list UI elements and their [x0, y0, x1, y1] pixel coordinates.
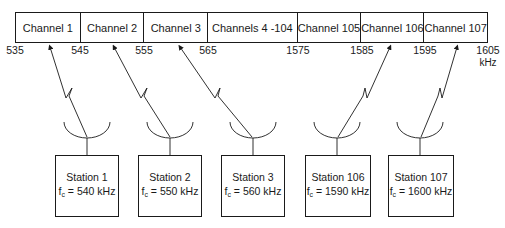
carrier-frequency: fc = 1600 kHz	[390, 184, 453, 202]
station-name: Station 106	[311, 170, 364, 184]
carrier-frequency: fc = 1590 kHz	[307, 184, 370, 202]
station-name: Station 107	[394, 170, 447, 184]
carrier-frequency: fc = 540 kHz	[59, 184, 116, 202]
lightning-arrow-icon	[180, 47, 252, 137]
lightning-arrow-icon	[338, 47, 390, 137]
dish-antenna-icon	[314, 122, 360, 155]
carrier-frequency: fc = 560 kHz	[225, 184, 282, 202]
station-box: Station 3 fc = 560 kHz	[221, 155, 285, 217]
station-box: Station 106 fc = 1590 kHz	[305, 155, 371, 217]
carrier-frequency: fc = 550 kHz	[142, 184, 199, 202]
lightning-arrow-icon	[421, 47, 457, 137]
lightning-arrow-icon	[114, 47, 170, 137]
dish-antenna-icon	[230, 122, 276, 155]
dish-antenna-icon	[397, 122, 443, 155]
station-box: Station 107 fc = 1600 kHz	[388, 155, 454, 217]
lightning-arrow-icon	[50, 47, 87, 137]
station-name: Station 2	[149, 170, 190, 184]
dish-antenna-icon	[64, 122, 110, 155]
dish-antenna-icon	[147, 122, 193, 155]
station-box: Station 1 fc = 540 kHz	[55, 155, 119, 217]
channel-allocation-diagram: Channel 1 Channel 2 Channel 3 Channels 4…	[0, 0, 505, 228]
station-name: Station 1	[66, 170, 107, 184]
station-name: Station 3	[232, 170, 273, 184]
station-box: Station 2 fc = 550 kHz	[138, 155, 202, 217]
